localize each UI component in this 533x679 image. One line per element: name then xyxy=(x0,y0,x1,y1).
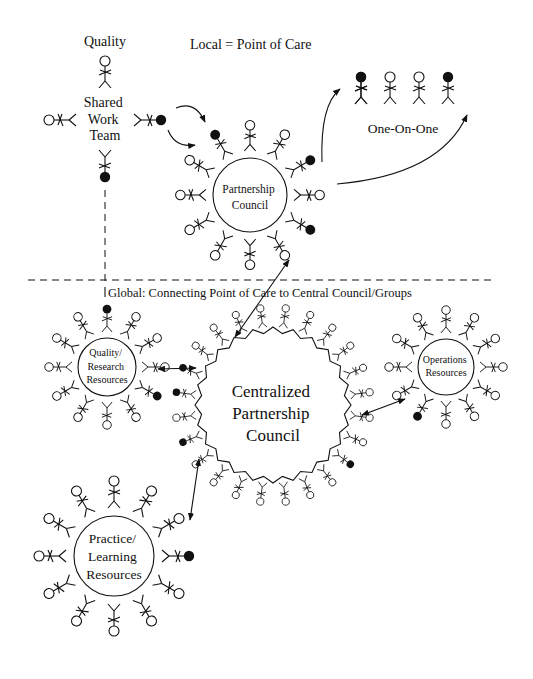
member-figure-open xyxy=(51,380,80,402)
operations-label: Operations Resources xyxy=(423,354,469,378)
one-on-one-figure-filled xyxy=(442,72,454,104)
member-figure-open xyxy=(135,331,164,353)
member-figure-open xyxy=(230,475,247,500)
member-figure-open xyxy=(350,411,374,423)
member-figure-open xyxy=(120,311,142,340)
member-figure-open xyxy=(343,431,368,448)
member-figure-filled xyxy=(172,387,196,399)
member-figure-open xyxy=(473,380,502,402)
member-figure-filled xyxy=(162,550,194,562)
member-figure-open xyxy=(69,595,95,629)
partnership-council-label: Partnership Council xyxy=(222,183,277,211)
member-figure-open xyxy=(299,310,316,335)
member-figure-open xyxy=(172,411,196,423)
one-on-one-figure-open xyxy=(413,72,425,104)
one-on-one-group: One-On-One xyxy=(355,72,438,136)
member-figure-filled xyxy=(178,431,203,448)
partnership-council-diagram: Local = Point of Care Quality Shared Wor… xyxy=(0,0,533,679)
partnership-council: Partnership Council xyxy=(176,121,325,270)
member-figure-open xyxy=(176,189,206,200)
member-figure-filled xyxy=(285,153,317,178)
shared-work-team-label: Shared Work Team xyxy=(84,95,126,143)
centralized-council-label: Centralized Partnership Council xyxy=(232,382,315,445)
member-figure-open xyxy=(480,362,507,372)
one-on-one-figure-open xyxy=(384,72,396,104)
member-figure-filled xyxy=(102,305,112,332)
practice-learning-resources: Practice/ Learning Resources xyxy=(34,476,194,636)
member-figure-open xyxy=(108,604,120,636)
member-figure-open xyxy=(244,121,255,151)
quality-research-label: Quality/ Research Resources xyxy=(86,347,127,385)
member-figure-open xyxy=(69,484,95,518)
member-figure-open xyxy=(299,475,316,500)
shared-work-team: Quality Shared Work Team xyxy=(44,34,166,182)
operations-resources: Operations Resources xyxy=(385,306,507,428)
one-on-one-figure-filled xyxy=(355,72,367,104)
one-on-one-label: One-On-One xyxy=(368,121,438,136)
member-figure-open xyxy=(244,239,255,269)
local-title: Local = Point of Care xyxy=(190,37,311,52)
member-figure-open xyxy=(142,362,169,372)
quality-label: Quality xyxy=(84,34,126,49)
quality-research-resources: Quality/ Research Resources xyxy=(45,305,169,430)
member-figure-open xyxy=(350,388,374,400)
member-figure-open xyxy=(190,340,214,361)
practice-learning-label: Practice/ Learning Resources xyxy=(86,531,141,582)
member-figure-open xyxy=(459,394,481,423)
member-figure-open xyxy=(208,230,233,262)
member-figure-open xyxy=(385,362,412,372)
member-figure-open xyxy=(390,332,419,354)
member-figure-open xyxy=(343,362,368,379)
member-figure-open xyxy=(51,331,80,353)
member-figure-open xyxy=(153,511,187,537)
member-figure-open xyxy=(45,362,72,372)
member-figure-open xyxy=(153,575,187,601)
member-figure-open xyxy=(267,128,292,160)
member-figure-filled xyxy=(332,449,356,470)
member-figure-open xyxy=(267,230,292,262)
member-figure-open xyxy=(120,395,142,424)
member-figure-open xyxy=(208,322,229,346)
member-figure-open xyxy=(294,189,324,200)
member-figure-open xyxy=(34,550,66,562)
member-figure-open xyxy=(208,464,229,488)
member-figure-open xyxy=(317,322,338,346)
member-figure-open xyxy=(473,332,502,354)
member-figure-filled xyxy=(178,362,203,379)
member-figure-open xyxy=(183,212,215,237)
member-figure-open xyxy=(411,311,433,340)
centralized-partnership-council: Centralized Partnership Council xyxy=(172,304,374,505)
member-figure-filled xyxy=(208,128,233,160)
arrow-centralized-operations xyxy=(362,399,405,415)
member-figure-open xyxy=(256,304,268,328)
member-figure-open xyxy=(42,575,76,601)
global-label: Global: Connecting Point of Care to Cent… xyxy=(108,286,412,300)
member-figure-open xyxy=(71,311,93,340)
member-figure-open xyxy=(183,153,215,178)
member-figure-filled xyxy=(285,212,317,237)
member-figure-open xyxy=(102,402,112,429)
member-figure-open xyxy=(133,484,159,518)
member-figure-open xyxy=(441,306,451,333)
arrow-swt-to-pc-lower xyxy=(168,130,195,145)
arrow-swt-to-pc-upper xyxy=(176,106,205,122)
member-figure-filled xyxy=(135,380,164,403)
member-figure-open xyxy=(459,311,481,340)
member-figure-open xyxy=(332,340,356,361)
member-figure-open xyxy=(133,595,159,629)
member-figure-open xyxy=(256,482,268,506)
member-figure-open xyxy=(42,511,76,537)
member-figure-open xyxy=(279,482,291,506)
member-figure-open xyxy=(108,476,120,508)
member-figure-open xyxy=(190,449,214,470)
member-figure-open xyxy=(317,464,338,488)
member-figure-open xyxy=(279,304,291,328)
arrow-pc-to-one-on-one-up xyxy=(322,89,340,162)
member-figure-open xyxy=(441,401,451,428)
member-figure-filled xyxy=(411,394,434,423)
member-figure-open xyxy=(71,395,93,424)
